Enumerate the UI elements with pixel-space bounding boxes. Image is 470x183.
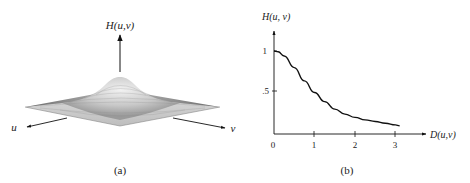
caption-a: (a) [114, 164, 127, 177]
figure-canvas: H(u,v) u v (a) H(u, v) D(u,v) 1 .5 0 1 2… [0, 0, 470, 183]
y-axis-label: H(u, v) [261, 11, 291, 23]
y-tick-0-5: .5 [262, 86, 269, 96]
x-tick-0: 0 [271, 140, 276, 150]
x-tick-2: 2 [353, 140, 358, 150]
x-tick-3: 3 [393, 140, 398, 150]
axis-u-label: u [11, 121, 17, 133]
caption-b: (b) [341, 164, 354, 177]
x-axis-label: D(u,v) [429, 129, 456, 141]
axis-h-label: H(u,v) [105, 19, 135, 32]
h-curve-line [274, 51, 400, 126]
x-tick-1: 1 [312, 140, 317, 150]
y-tick-1: 1 [263, 46, 268, 56]
axis-v-label: v [231, 122, 236, 134]
axis-u-arrow [27, 118, 67, 127]
panel-a-surface-plot: H(u,v) u v (a) [11, 19, 235, 177]
panel-b-line-chart: H(u, v) D(u,v) 1 .5 0 1 2 3 (b) [261, 11, 456, 177]
axis-v-arrow [173, 118, 225, 128]
